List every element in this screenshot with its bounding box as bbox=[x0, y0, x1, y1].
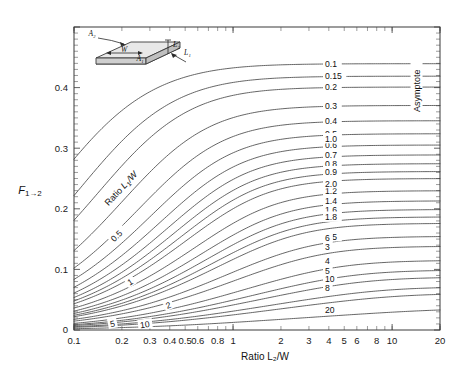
curve-label-3: 3 bbox=[325, 242, 330, 252]
inset-label-l1: L₁ bbox=[183, 48, 191, 57]
inset-label-a1: A₁ bbox=[135, 54, 144, 63]
x-axis-tick-label: 0.8 bbox=[211, 335, 224, 346]
y-axis-tick-label: 0.1 bbox=[55, 264, 68, 275]
x-axis-tick-label: 4 bbox=[326, 335, 331, 346]
y-axis-tick-label: 0 bbox=[63, 324, 68, 335]
y-axis-tick-label: 0.4 bbox=[55, 82, 68, 93]
y-axis-tick-label: 0.2 bbox=[55, 203, 68, 214]
x-axis-tick-label: 2 bbox=[278, 335, 283, 346]
y-axis-tick-label: 0.3 bbox=[55, 143, 68, 154]
curve-label-10: 10 bbox=[325, 274, 335, 284]
x-axis-tick-label: 0.1 bbox=[67, 335, 80, 346]
x-axis-tick-label: 10 bbox=[387, 335, 398, 346]
curve-label-0.4: 0.4 bbox=[325, 116, 337, 126]
view-factor-chart: 0.10.20.30.40.50.60.812345681020Ratio L₂… bbox=[0, 0, 469, 379]
curve-label-0.3: 0.3 bbox=[325, 101, 337, 111]
x-axis-tick-label: 0.6 bbox=[191, 335, 204, 346]
curve-label-left-text: 10 bbox=[139, 319, 150, 330]
inset-label-w: W bbox=[121, 45, 128, 54]
curve-label-0.15: 0.15 bbox=[325, 71, 342, 81]
inset-label-a2: A₂ bbox=[87, 29, 96, 38]
x-axis-tick-label: 1 bbox=[230, 335, 235, 346]
curve-label-1.8: 1.8 bbox=[325, 212, 337, 222]
x-axis-tick-label: 0.5 bbox=[179, 335, 192, 346]
curve-label-0.9: 0.9 bbox=[325, 167, 337, 177]
x-axis-tick-label: 0.4 bbox=[163, 335, 176, 346]
x-axis-title: Ratio L₂/W bbox=[241, 351, 289, 362]
x-axis-tick-label: 0.3 bbox=[143, 335, 156, 346]
chart-canvas: 0.10.20.30.40.50.60.812345681020Ratio L₂… bbox=[0, 0, 469, 379]
inset-label-l2: L₂ bbox=[172, 40, 180, 49]
x-axis-tick-label: 8 bbox=[374, 335, 379, 346]
curve-label-0.2: 0.2 bbox=[325, 82, 337, 92]
asymptote-text: Asymptote bbox=[412, 69, 422, 112]
x-axis-tick-label: 3 bbox=[306, 335, 311, 346]
x-axis-tick-label: 5 bbox=[342, 335, 347, 346]
curve-label-2.0: 2.0 bbox=[325, 179, 337, 189]
curve-label-1.0: 1.0 bbox=[325, 134, 337, 144]
x-axis-tick-label: 6 bbox=[354, 335, 359, 346]
curve-label-6: 6 bbox=[325, 233, 330, 243]
asymptote-annotation: Asymptote bbox=[411, 60, 423, 114]
y-axis-title: F1→2 bbox=[18, 184, 42, 199]
curve-label-20: 20 bbox=[325, 305, 335, 315]
x-axis-tick-label: 0.2 bbox=[115, 335, 128, 346]
curve-label-4: 4 bbox=[325, 256, 330, 266]
curve-label-0.1: 0.1 bbox=[325, 59, 337, 69]
x-axis-tick-label: 20 bbox=[435, 335, 446, 346]
